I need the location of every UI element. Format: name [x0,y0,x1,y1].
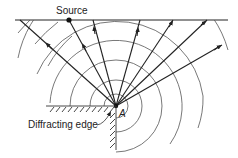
source-label: Source [56,5,88,16]
edge-label: Diffracting edge [28,119,98,130]
point-a-label: A [118,108,126,119]
rays [20,20,222,106]
diffraction-diagram: Source A Diffracting edge [0,0,238,158]
source-dot [66,17,71,22]
edge-leader [97,113,110,125]
